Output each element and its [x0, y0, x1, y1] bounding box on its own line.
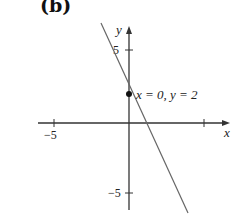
data-line	[101, 23, 188, 213]
x-tick-label-neg5: −5	[44, 128, 57, 142]
y-tick-label-neg5: −5	[108, 186, 121, 200]
y-axis-label: y	[114, 22, 122, 37]
intercept-point	[126, 91, 132, 97]
x-axis-label: x	[223, 125, 230, 140]
point-annotation: x = 0, y = 2	[135, 87, 198, 102]
y-axis-arrow-icon	[126, 26, 132, 34]
line-plot: −5 5 −5 x y x = 0, y = 2	[0, 0, 245, 220]
